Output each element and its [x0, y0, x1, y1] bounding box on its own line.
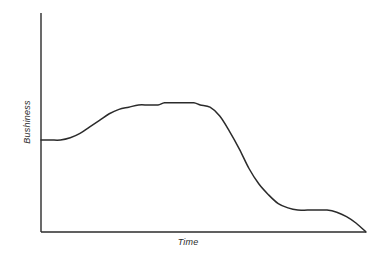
axes-group — [41, 13, 366, 232]
data-series-group — [41, 103, 366, 232]
x-axis-label-text: Time — [178, 237, 199, 247]
chart-container: Bushiness Time — [0, 0, 376, 259]
chart-plot-area — [0, 0, 376, 259]
x-axis-label: Time — [0, 237, 376, 247]
y-axis-label-text: Bushiness — [22, 100, 32, 143]
bushiness-curve — [41, 103, 366, 232]
